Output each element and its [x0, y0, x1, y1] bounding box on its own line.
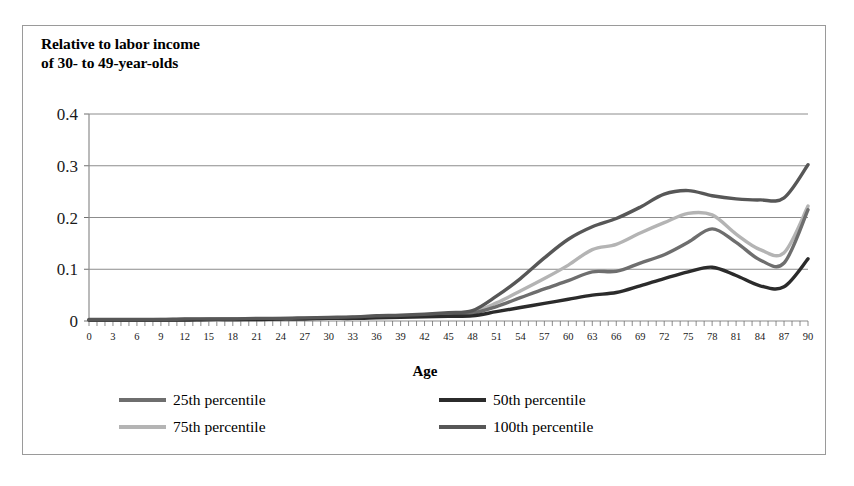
line-swatch-25th-icon [119, 398, 166, 402]
series-line-25th-percentile [89, 210, 808, 320]
y-tick-label: 0 [70, 312, 79, 331]
legend-item-100th: 100th percentile [439, 418, 759, 436]
x-tick-label: 60 [563, 331, 574, 342]
x-tick-label: 30 [323, 331, 334, 342]
x-tick-label: 51 [491, 331, 502, 342]
x-tick-label: 45 [443, 331, 454, 342]
y-tick-label: 0.2 [57, 209, 78, 228]
y-tick-label: 0.3 [57, 157, 78, 176]
chart-legend: 25th percentile 50th percentile 75th per… [119, 391, 759, 436]
x-tick-label: 84 [755, 331, 766, 342]
series-line-50th-percentile [89, 259, 808, 320]
line-swatch-50th-icon [439, 398, 486, 402]
x-tick-label: 42 [419, 331, 430, 342]
x-tick-label: 15 [204, 331, 215, 342]
legend-label-50th: 50th percentile [493, 391, 586, 409]
x-tick-label: 39 [395, 331, 406, 342]
y-tick-label: 0.4 [57, 105, 79, 124]
x-tick-label: 69 [635, 331, 646, 342]
x-tick-label: 81 [731, 331, 742, 342]
x-tick-label: 78 [707, 331, 718, 342]
x-tick-label: 33 [347, 331, 358, 342]
x-tick-label: 63 [587, 331, 598, 342]
line-swatch-75th-icon [119, 425, 166, 429]
x-axis-title: Age [23, 363, 827, 380]
x-tick-label: 87 [779, 331, 790, 342]
x-tick-label: 54 [515, 331, 526, 342]
x-tick-label: 72 [659, 331, 670, 342]
y-tick-label: 0.1 [57, 260, 78, 279]
x-tick-label: 75 [683, 331, 694, 342]
x-tick-label: 24 [275, 331, 286, 342]
line-swatch-100th-icon [439, 425, 486, 429]
series-line-100th-percentile [89, 165, 808, 320]
x-tick-label: 27 [299, 331, 310, 342]
x-tick-label: 66 [611, 331, 622, 342]
x-tick-label: 21 [252, 331, 263, 342]
x-tick-label: 90 [803, 331, 814, 342]
x-tick-label: 9 [158, 331, 163, 342]
legend-label-100th: 100th percentile [493, 418, 593, 436]
legend-label-25th: 25th percentile [173, 391, 266, 409]
x-tick-label: 36 [371, 331, 382, 342]
legend-item-50th: 50th percentile [439, 391, 759, 409]
legend-label-75th: 75th percentile [173, 418, 266, 436]
legend-item-75th: 75th percentile [119, 418, 439, 436]
x-tick-label: 3 [110, 331, 115, 342]
x-tick-label: 0 [86, 331, 91, 342]
series-line-75th-percentile [89, 206, 808, 320]
x-tick-label: 18 [228, 331, 239, 342]
x-tick-label: 12 [180, 331, 191, 342]
x-tick-label: 6 [134, 331, 139, 342]
x-tick-label: 57 [539, 331, 550, 342]
legend-item-25th: 25th percentile [119, 391, 439, 409]
x-tick-label: 48 [467, 331, 478, 342]
figure-frame: Relative to labor income of 30- to 49-ye… [22, 25, 826, 455]
